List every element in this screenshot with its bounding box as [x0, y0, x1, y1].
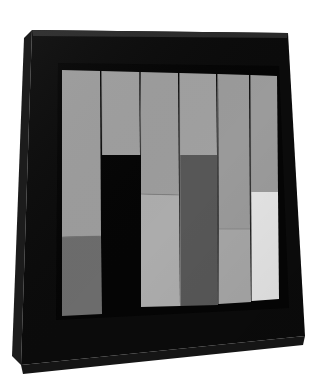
lighting-vignette-overlay — [21, 30, 305, 365]
artwork-photo-canvas: Geometric relief artwork photograph Blac… — [0, 0, 329, 387]
artwork-svg — [0, 0, 329, 387]
